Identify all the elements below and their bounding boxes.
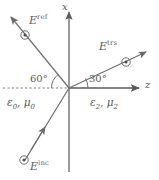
reflected-wave-label: Eref — [29, 14, 47, 26]
transmitted-polarization-marker-icon — [122, 58, 130, 66]
medium-left-separator: , — [17, 96, 24, 108]
x-axis-label: x — [62, 2, 68, 12]
medium-right-permeability-sub: 2 — [114, 103, 118, 111]
angle-30-label: 30° — [89, 74, 107, 84]
transmitted-wave-ray — [69, 52, 146, 88]
incident-wave-superscript: inc — [38, 159, 49, 167]
figure-canvas — [0, 0, 159, 180]
incident-wave-label: Einc — [30, 160, 49, 172]
reflected-polarization-marker-icon — [21, 31, 29, 39]
incident-polarization-marker-icon — [20, 156, 28, 164]
angle-60-arc — [52, 74, 59, 88]
transmitted-wave-superscript: trs — [107, 39, 117, 47]
angle-60-label: 60° — [30, 74, 48, 84]
transmitted-wave-label: Etrs — [99, 40, 117, 52]
reflected-wave-superscript: ref — [37, 13, 47, 21]
medium-left-permeability-sub: 0 — [31, 103, 35, 111]
z-axis-label: z — [145, 80, 150, 90]
medium-left-label: ε0, μ0 — [7, 97, 35, 111]
incident-wave-arrow — [31, 127, 45, 150]
medium-right-label: ε2, μ2 — [90, 97, 118, 111]
medium-right-separator: , — [100, 96, 107, 108]
wave-interface-figure: x z Eref Etrs Einc 60° 30° ε0, μ0 ε2, μ2 — [0, 0, 159, 180]
